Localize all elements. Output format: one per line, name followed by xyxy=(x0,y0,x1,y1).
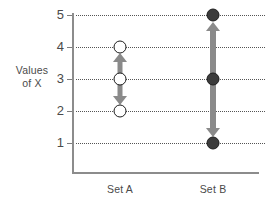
data-point-set-a-3 xyxy=(114,73,127,86)
data-point-set-b-1 xyxy=(207,137,220,150)
x-category-label-set-b: Set B xyxy=(173,183,253,195)
arrow-head-up-icon xyxy=(206,22,220,31)
gridline-1 xyxy=(76,143,265,144)
data-point-set-b-5 xyxy=(207,9,220,22)
arrow-head-up-icon xyxy=(113,53,127,62)
y-tick-label-5: 5 xyxy=(48,8,64,21)
y-axis-line xyxy=(72,13,74,174)
gridline-4 xyxy=(76,47,265,48)
y-tick-label-2: 2 xyxy=(48,104,64,117)
gridline-3 xyxy=(76,79,265,80)
data-point-set-a-2 xyxy=(114,105,127,118)
y-tick-label-4: 4 xyxy=(48,40,64,53)
data-point-set-b-3 xyxy=(207,73,220,86)
scatter-chart: Values of X 5 4 3 2 1 Set A Set B xyxy=(0,0,268,203)
y-tick-label-3: 3 xyxy=(48,72,64,85)
x-category-label-set-a: Set A xyxy=(80,183,160,195)
gridline-5 xyxy=(76,15,265,16)
x-axis-line xyxy=(72,172,259,174)
y-tick-label-1: 1 xyxy=(48,136,64,149)
gridline-2 xyxy=(76,111,265,112)
data-point-set-a-4 xyxy=(114,41,127,54)
